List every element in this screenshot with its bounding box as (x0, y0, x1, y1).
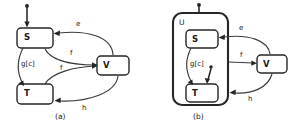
transition-v-to-t-a[interactable]: h (55, 76, 119, 112)
initial-state-dot-t-b (209, 65, 212, 68)
state-v-b[interactable]: V (257, 55, 287, 73)
transition-v-to-s-a[interactable]: e (54, 20, 114, 55)
diagram-a: S T V e f (17, 4, 129, 121)
transition-t-to-v-a-label: f (60, 64, 63, 72)
statechart-figure: S T V e f (0, 0, 293, 124)
transition-u-to-v-b-path (229, 62, 253, 63)
caption-b: (b) (193, 112, 204, 121)
initial-state-dot-a (25, 4, 29, 8)
state-t-b-label: T (192, 88, 198, 98)
state-s-a[interactable]: S (17, 28, 53, 48)
transition-t-to-v-a[interactable]: f (45, 63, 98, 84)
transition-v-to-u-b-label: h (248, 95, 252, 103)
transition-v-to-s-a-path (59, 32, 113, 55)
initial-transition-a (24, 4, 29, 27)
transition-s-to-t-a-label: g[c] (21, 60, 35, 68)
transition-v-to-t-a-label: h (82, 104, 86, 112)
transition-v-to-s-b-path (224, 36, 270, 54)
transition-u-to-v-b[interactable]: f (229, 51, 257, 66)
initial-state-dot-b (197, 3, 201, 7)
state-t-a-box (17, 84, 53, 104)
state-s-b-box (186, 30, 218, 48)
caption-a: (a) (55, 112, 66, 121)
state-v-b-label: V (263, 59, 270, 69)
state-t-a-label: T (24, 88, 30, 98)
transition-u-to-v-b-arrowhead (251, 60, 257, 65)
state-t-b[interactable]: T (186, 84, 218, 102)
transition-v-to-s-b-label: e (239, 24, 243, 32)
state-v-a-box (97, 56, 129, 75)
statechart-canvas: S T V e f (0, 0, 293, 124)
transition-v-to-t-a-path (60, 76, 118, 101)
state-s-a-label: S (24, 32, 30, 42)
transition-v-to-u-b-path (235, 74, 272, 93)
transition-s-to-t-b-label: g[c] (190, 60, 204, 68)
transition-v-to-u-b-arrowhead (230, 90, 236, 95)
composite-state-u-label: U (179, 18, 185, 27)
transition-u-to-v-b-label: f (240, 51, 243, 59)
transition-s-to-v-a-label: f (70, 49, 73, 57)
state-t-b-box (186, 84, 218, 102)
transition-t-to-v-a-path (45, 66, 94, 84)
state-s-b[interactable]: S (186, 30, 218, 48)
state-s-b-label: S (192, 34, 198, 44)
state-t-a[interactable]: T (17, 84, 53, 104)
state-v-a-label: V (103, 60, 110, 70)
state-v-a[interactable]: V (97, 56, 129, 75)
transition-v-to-s-a-arrowhead (54, 31, 61, 36)
transition-v-to-s-a-label: e (76, 20, 80, 28)
transition-s-to-v-a[interactable]: f (45, 49, 98, 68)
transition-s-to-t-a[interactable]: g[c] (18, 48, 35, 86)
state-s-a-box (17, 28, 53, 48)
transition-v-to-u-b[interactable]: h (230, 74, 273, 103)
transition-v-to-t-a-arrowhead (55, 98, 61, 103)
diagram-b: U S T V e (173, 3, 287, 121)
state-v-b-box (257, 55, 287, 73)
initial-arrowhead-a (24, 22, 29, 28)
